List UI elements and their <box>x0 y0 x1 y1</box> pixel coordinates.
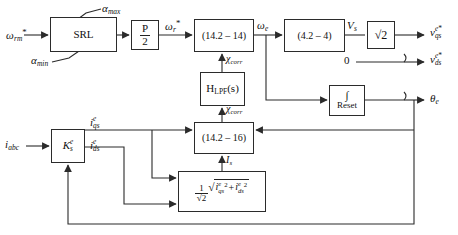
lpf-subscript: LPF <box>214 87 227 96</box>
vqs-indices: e*qs <box>435 26 442 40</box>
block-diagram-canvas: SRL P 2 (14.2 – 14) (4.2 – 4) √2 HLPF(s)… <box>0 0 458 235</box>
label-zero-input: 0 <box>344 55 350 66</box>
park-transform-expression: Kes <box>63 139 74 153</box>
label-i-qs: ieqs <box>90 116 100 130</box>
label-speed-reference-input: ωrm* <box>6 28 27 43</box>
rms-expression: 1 √2 √ieqs2+ieds2 <box>195 179 250 203</box>
park-k-symbol: K <box>63 139 70 151</box>
block-equation-14-2-14[interactable]: (14.2 – 14) <box>194 19 254 52</box>
eq-14-2-14-label: (14.2 – 14) <box>202 31 246 41</box>
reset-label: Reset <box>337 101 357 110</box>
label-alpha-min: αmin <box>31 55 48 68</box>
eq-4-2-4-label: (4.2 – 4) <box>297 31 331 41</box>
rms-coefficient: 1 √2 <box>195 184 208 204</box>
srl-label: SRL <box>73 29 93 40</box>
label-i-abc: iabc <box>5 139 19 152</box>
lpf-symbol: H <box>206 82 214 94</box>
output-label-theta-e: θe <box>430 93 439 106</box>
label-omega-e: ωe <box>257 20 268 33</box>
label-stator-voltage: Vs <box>347 20 357 33</box>
block-equation-14-2-16[interactable]: (14.2 – 16) <box>194 122 254 154</box>
block-current-magnitude[interactable]: 1 √2 √ieqs2+ieds2 <box>178 171 266 212</box>
label-omega-r-reference: ωr* <box>165 19 180 34</box>
label-current-magnitude-is: Is <box>226 155 232 167</box>
lpf-argument: (s) <box>227 82 239 94</box>
label-alpha-max: αmax <box>102 3 120 16</box>
block-park-transform[interactable]: Kes <box>51 129 85 163</box>
lpf-expression: HLPF(s) <box>206 83 239 96</box>
park-indices: es <box>70 139 73 153</box>
block-integrator-reset[interactable]: ∫ Reset <box>329 85 365 116</box>
vds-indices: e*ds <box>435 53 442 67</box>
pole-pairs-fraction: P 2 <box>140 23 150 47</box>
block-slew-rate-limiter[interactable]: SRL <box>50 17 117 52</box>
eq-14-2-16-label: (14.2 – 16) <box>202 133 246 143</box>
output-label-vds: ve*ds <box>430 53 442 67</box>
block-equation-4-2-4[interactable]: (4.2 – 4) <box>284 19 345 52</box>
radicand: ieqs2+ieds2 <box>214 179 250 194</box>
label-i-ds: ieds <box>90 139 100 153</box>
block-sqrt2-gain[interactable]: √2 <box>367 21 395 49</box>
label-chi-corr-lower: χcorr <box>226 104 242 116</box>
iqs-label-indices: eqs <box>93 116 99 130</box>
sqrt2-label: √2 <box>375 29 388 41</box>
block-pole-pairs[interactable]: P 2 <box>131 20 159 50</box>
pole-pairs-numerator: P <box>140 23 150 35</box>
pole-pairs-denominator: 2 <box>140 35 150 48</box>
label-chi-corr-upper: χcorr <box>226 54 242 66</box>
block-lowpass-filter[interactable]: HLPF(s) <box>200 72 245 106</box>
output-label-vqs: ve*qs <box>430 26 442 40</box>
ids-label-indices: eds <box>93 139 99 153</box>
